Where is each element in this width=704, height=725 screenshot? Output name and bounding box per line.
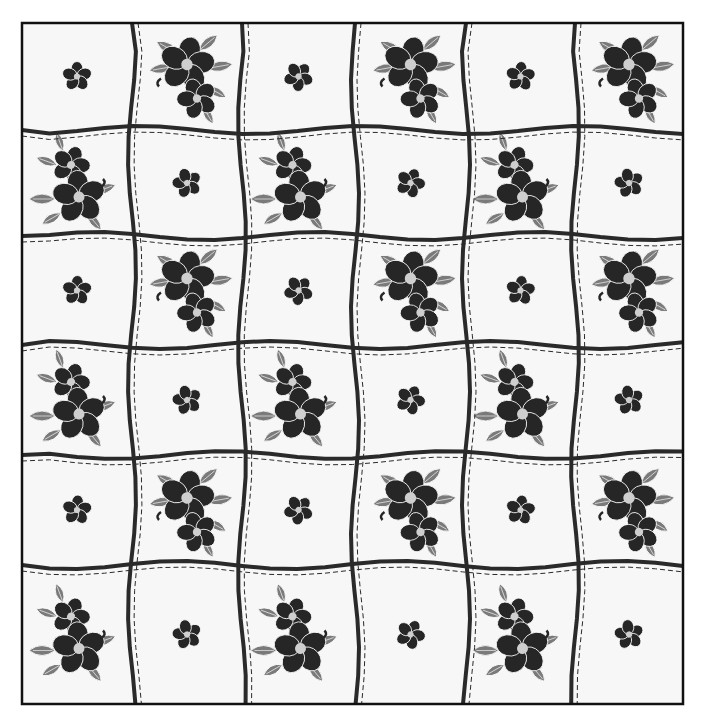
quilt-pattern [0, 0, 704, 725]
